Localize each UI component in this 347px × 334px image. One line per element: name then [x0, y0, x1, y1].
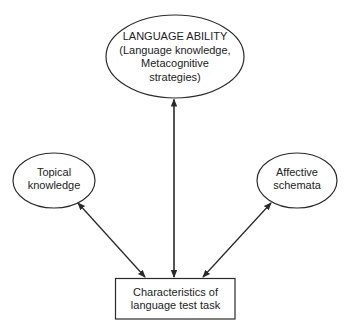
affective-schemata-line-2: schemata [273, 179, 321, 193]
topical-knowledge-line-2: knowledge [28, 179, 81, 193]
test-task-line-1: Characteristics of [133, 286, 218, 300]
arrow-topical-knowledge-to-test-task [78, 203, 145, 277]
test-task-label: Characteristics of language test task [116, 283, 235, 315]
topical-knowledge-label: Topical knowledge [13, 163, 95, 195]
language-ability-line-3: Metacognitive [141, 57, 209, 71]
test-task-line-2: language test task [131, 299, 220, 313]
language-ability-label: LANGUAGE ABILITY (Language knowledge, Me… [106, 26, 244, 88]
language-ability-line-1: LANGUAGE ABILITY [123, 30, 228, 44]
topical-knowledge-line-1: Topical [37, 166, 71, 180]
language-ability-line-4: strategies) [149, 71, 200, 85]
affective-schemata-label: Affective schemata [257, 163, 337, 195]
affective-schemata-line-1: Affective [276, 166, 318, 180]
language-ability-line-2: (Language knowledge, [119, 44, 230, 58]
arrow-affective-schemata-to-test-task [203, 203, 271, 277]
